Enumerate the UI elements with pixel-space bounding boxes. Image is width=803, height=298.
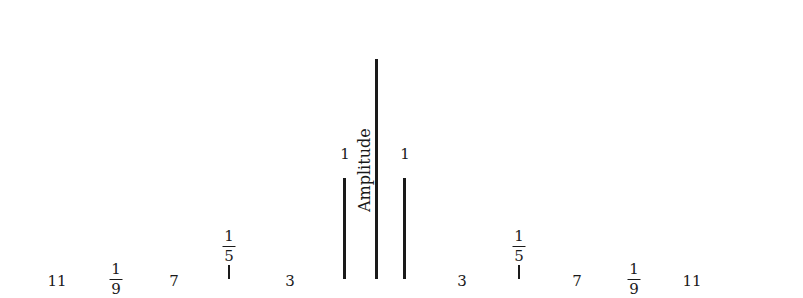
label-right-1: 1 [400,147,410,162]
fraction-left: 1 5 [223,229,236,264]
fraction-right-far: 1 9 [628,262,641,297]
fraction-denominator: 5 [514,249,524,264]
fraction-numerator: 1 [111,262,121,277]
center-stem [375,59,378,279]
amplitude-axis-label: Amplitude [355,128,374,212]
bottom-label-11-left: 11 [47,274,66,289]
fraction-numerator: 1 [629,262,639,277]
bottom-label-11-right: 11 [682,274,701,289]
label-left-1: 1 [340,147,350,162]
fraction-numerator: 1 [514,229,524,244]
bottom-label-7-right: 7 [572,274,582,289]
fraction-right: 1 5 [513,229,526,264]
stem-left-5 [228,265,230,279]
bottom-label-3-left: 3 [285,274,295,289]
fraction-denominator: 9 [111,282,121,297]
fraction-denominator: 5 [224,249,234,264]
stem-right-5 [518,265,520,279]
bottom-label-7-left: 7 [169,274,179,289]
fraction-left-far: 1 9 [110,262,123,297]
bottom-label-3-right: 3 [457,274,467,289]
stem-left-1 [343,178,346,279]
fraction-denominator: 9 [629,282,639,297]
stem-right-1 [403,178,406,279]
fraction-numerator: 1 [224,229,234,244]
